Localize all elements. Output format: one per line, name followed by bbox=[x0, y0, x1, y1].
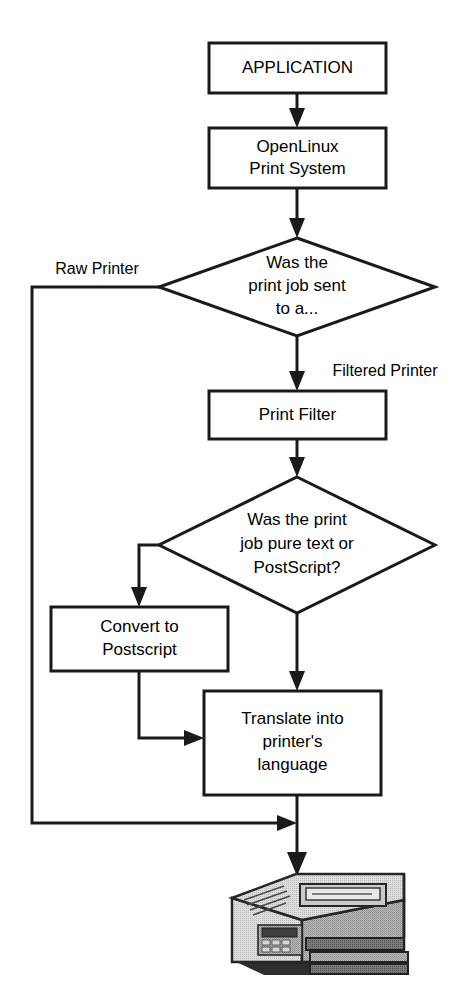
edge-translate-to-printer bbox=[287, 795, 307, 876]
translate-label-line3: language bbox=[258, 755, 328, 774]
node-translate[interactable]: Translate into printer's language bbox=[204, 691, 381, 795]
printer-output-tray-bottom bbox=[310, 964, 408, 974]
print-system-label-line1: OpenLinux bbox=[256, 137, 339, 156]
edge-decision-job-format-to-translate bbox=[289, 613, 305, 691]
node-convert-to-postscript[interactable]: Convert to Postscript bbox=[51, 607, 228, 671]
edge-print-filter-to-decision-job-format bbox=[289, 439, 305, 477]
node-print-system[interactable]: OpenLinux Print System bbox=[209, 128, 386, 188]
application-label: APPLICATION bbox=[242, 58, 353, 77]
convert-to-postscript-label-line2: Postscript bbox=[102, 640, 177, 659]
node-application[interactable]: APPLICATION bbox=[209, 43, 386, 93]
print-system-label-line2: Print System bbox=[249, 159, 345, 178]
decision-job-format-label-line2: job pure text or bbox=[239, 534, 354, 553]
decision-printer-type-label-line3: to a... bbox=[276, 299, 319, 318]
node-print-filter[interactable]: Print Filter bbox=[209, 391, 386, 439]
printer-lcd-display bbox=[262, 928, 297, 937]
decision-job-format-label-line3: PostScript? bbox=[254, 558, 341, 577]
node-decision-printer-type[interactable]: Was the print job sent to a... bbox=[159, 238, 435, 336]
printer-icon bbox=[232, 874, 408, 975]
decision-printer-type-label-line1: Was the bbox=[266, 253, 328, 272]
print-filter-label: Print Filter bbox=[259, 405, 337, 424]
flowchart-canvas: APPLICATION OpenLinux Print System Was t… bbox=[0, 0, 465, 997]
translate-label-line2: printer's bbox=[263, 732, 323, 751]
printer-output-tray-mid bbox=[310, 952, 408, 962]
edge-label-filtered-printer: Filtered Printer bbox=[333, 362, 439, 379]
decision-printer-type-label-line2: print job sent bbox=[248, 276, 346, 295]
printer-output-tray-top bbox=[306, 938, 404, 950]
decision-job-format-label-line1: Was the print bbox=[247, 510, 347, 529]
edge-filtered-printer-branch bbox=[289, 336, 305, 391]
translate-label-line1: Translate into bbox=[241, 709, 343, 728]
node-decision-job-format[interactable]: Was the print job pure text or PostScrip… bbox=[159, 477, 435, 613]
edge-print-system-to-decision-printer-type bbox=[289, 188, 305, 238]
edge-label-raw-printer: Raw Printer bbox=[55, 260, 139, 277]
edge-application-to-print-system bbox=[289, 93, 305, 128]
edge-convert-to-translate bbox=[139, 671, 204, 746]
convert-to-postscript-label-line1: Convert to bbox=[100, 617, 178, 636]
flowchart-diagram: APPLICATION OpenLinux Print System Was t… bbox=[0, 0, 465, 997]
